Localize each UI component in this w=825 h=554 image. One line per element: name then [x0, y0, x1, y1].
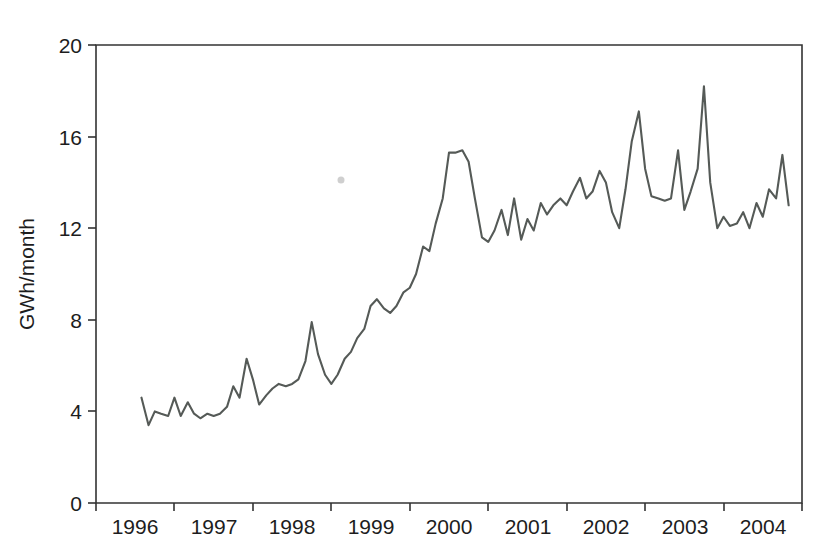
y-tick-label-4: 4 [70, 400, 82, 423]
series-line-gwh-per-month [142, 86, 789, 425]
x-tick-label-2003: 2003 [662, 515, 709, 538]
y-axis-title: GWh/month [15, 218, 38, 330]
axis-frame [96, 45, 802, 503]
y-tick-label-12: 12 [59, 217, 82, 240]
y-tick-label-0: 0 [70, 492, 82, 515]
y-axis-ticks [88, 45, 96, 503]
x-tick-label-2001: 2001 [505, 515, 552, 538]
line-chart: 0 4 8 12 16 20 GWh/month 1996 1997 1998 [0, 0, 825, 554]
y-tick-label-16: 16 [59, 126, 82, 149]
x-tick-label-2002: 2002 [583, 515, 630, 538]
x-tick-label-1996: 1996 [112, 515, 159, 538]
x-axis-ticks [96, 503, 802, 511]
y-tick-label-20: 20 [59, 34, 82, 57]
scan-speck [338, 177, 345, 184]
x-tick-label-2004: 2004 [740, 515, 787, 538]
x-tick-label-1999: 1999 [348, 515, 395, 538]
x-tick-label-1998: 1998 [269, 515, 316, 538]
x-tick-label-2000: 2000 [426, 515, 473, 538]
chart-figure: 0 4 8 12 16 20 GWh/month 1996 1997 1998 [0, 0, 825, 554]
x-axis-tick-labels: 1996 1997 1998 1999 2000 2001 2002 2003 … [112, 515, 787, 538]
y-axis-tick-labels: 0 4 8 12 16 20 [59, 34, 83, 515]
x-tick-label-1997: 1997 [191, 515, 238, 538]
y-tick-label-8: 8 [70, 309, 82, 332]
